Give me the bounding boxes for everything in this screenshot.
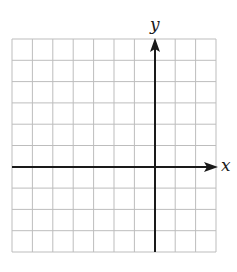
x-axis-label: x <box>221 157 231 174</box>
coordinate-grid <box>0 0 237 272</box>
y-axis-label: y <box>150 16 160 33</box>
grid-lines <box>12 39 216 252</box>
